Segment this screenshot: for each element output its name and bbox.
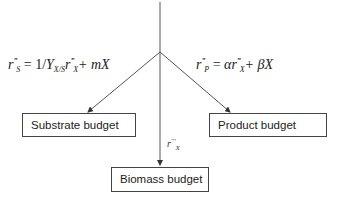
substrate-equation: r'''S = 1/YX/Sr'''X+ mX <box>8 56 110 74</box>
product-equation: r'''P = αr'''X+ βX <box>196 56 273 74</box>
substrate-budget-box: Substrate budget <box>22 113 136 137</box>
biomass-rate-label: r'''X <box>167 137 180 152</box>
product-budget-box: Product budget <box>209 113 327 137</box>
product-budget-label: Product budget <box>218 119 296 131</box>
biomass-budget-label: Biomass budget <box>120 173 202 185</box>
diagram-canvas: r'''S = 1/YX/Sr'''X+ mX r'''P = αr'''X+ … <box>0 0 342 201</box>
biomass-budget-box: Biomass budget <box>111 167 209 192</box>
substrate-budget-label: Substrate budget <box>31 119 119 131</box>
